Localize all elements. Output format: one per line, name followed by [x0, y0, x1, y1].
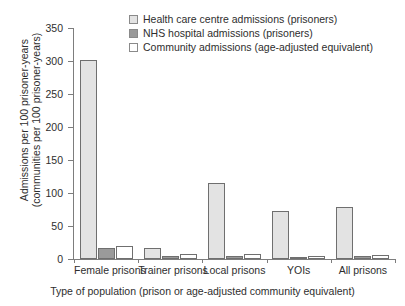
y-axis-tick-label: 0: [33, 254, 63, 264]
y-axis-tick: [68, 226, 73, 227]
bar-chart: Health care centre admissions (prisoners…: [0, 0, 405, 306]
bar-group: [138, 28, 202, 259]
y-axis-title-line-2: (communities per 100 prisoner-years): [30, 20, 42, 220]
y-axis-title: Admissions per 100 prisoner-years (commu…: [18, 20, 42, 220]
y-axis-tick: [68, 94, 73, 95]
x-axis-category-label: All prisons: [331, 264, 395, 276]
bar: [272, 211, 289, 259]
y-axis-tick: [68, 61, 73, 62]
x-axis-category-label: YOIs: [267, 264, 331, 276]
y-axis-tick: [68, 127, 73, 128]
bar: [80, 60, 97, 259]
bar: [336, 207, 353, 259]
x-axis-title: Type of population (prison or age-adjust…: [0, 285, 405, 297]
x-axis-tick: [138, 259, 139, 263]
bar: [116, 246, 133, 259]
y-axis-tick: [68, 193, 73, 194]
bar-group: [74, 28, 138, 259]
y-axis-tick: [68, 160, 73, 161]
y-axis-title-line-1: Admissions per 100 prisoner-years: [18, 20, 30, 220]
x-axis-line: [73, 259, 395, 260]
bar: [98, 248, 115, 259]
x-axis-category-label: Local prisons: [202, 264, 266, 276]
bar-group: [202, 28, 266, 259]
x-axis-category-label: Trainer prisons: [138, 264, 202, 276]
legend-item[interactable]: Health care centre admissions (prisoners…: [129, 13, 373, 26]
y-axis-tick-label: 50: [33, 221, 63, 231]
bar: [208, 183, 225, 259]
bar-group: [331, 28, 395, 259]
x-axis-tick: [267, 259, 268, 263]
x-axis-tick: [202, 259, 203, 263]
legend-item-label: Health care centre admissions (prisoners…: [143, 14, 337, 25]
x-axis-tick: [395, 259, 396, 263]
bar: [144, 248, 161, 259]
x-axis-tick: [331, 259, 332, 263]
bar-group: [267, 28, 331, 259]
x-axis-tick: [74, 259, 75, 263]
plot-area: [74, 28, 395, 259]
legend-swatch-icon: [129, 15, 138, 24]
y-axis-tick: [68, 28, 73, 29]
x-axis-category-label: Female prisons: [74, 264, 138, 276]
